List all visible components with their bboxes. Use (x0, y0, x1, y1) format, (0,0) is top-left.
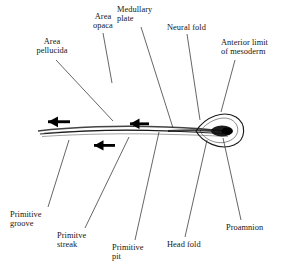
label-area-pellucida: Area pellucida (28, 37, 76, 56)
label-head-fold: Head fold (167, 240, 217, 249)
label-primitive-groove: Primitive groove (10, 210, 62, 229)
label-proamnion: Proamnion (226, 223, 282, 232)
label-neural-fold: Neural fold (167, 23, 225, 32)
label-anterior-limit-of-mesoderm: Anterior limit of mesoderm (221, 38, 291, 57)
label-primitive-pit: Primitive pit (112, 243, 158, 262)
label-medullary-plate: Medullary plate (117, 5, 169, 24)
label-primitive-streak: Primitve streak (57, 231, 109, 250)
